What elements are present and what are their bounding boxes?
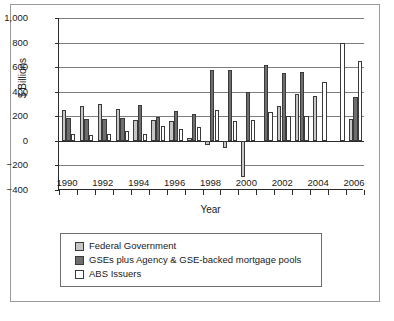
x-axis-tick (95, 190, 96, 195)
x-axis-tick (203, 190, 204, 195)
x-axis-tick-label: 1994 (119, 178, 159, 188)
legend-swatch-fed (75, 242, 84, 251)
y-axis-tick (55, 67, 59, 68)
x-axis-label: Year (58, 204, 363, 215)
bar (102, 119, 106, 141)
legend: Federal GovernmentGSEs plus Agency & GSE… (60, 233, 322, 287)
bar (143, 134, 147, 141)
bar (71, 134, 75, 141)
legend-item: ABS Issuers (61, 267, 321, 281)
bar (246, 92, 250, 141)
x-axis-tick (328, 190, 329, 195)
bar (340, 43, 344, 141)
bar (174, 111, 178, 140)
x-axis-tick (220, 190, 221, 195)
x-axis-tick (131, 190, 132, 195)
bar (264, 65, 268, 141)
bar (84, 119, 88, 141)
legend-label: Federal Government (89, 241, 176, 251)
x-axis-tick (185, 190, 186, 195)
bar (223, 141, 227, 148)
bar (156, 117, 160, 141)
gridline (59, 165, 364, 166)
bar (233, 121, 237, 141)
bar (192, 114, 196, 140)
x-axis-tick (310, 190, 311, 195)
bar (286, 116, 290, 141)
y-axis-tick-label: −400 (0, 185, 28, 195)
legend-swatch-gse (75, 256, 84, 265)
bar (304, 116, 308, 141)
bar (120, 118, 124, 141)
bar (353, 97, 357, 141)
y-axis-tick (55, 165, 59, 166)
zero-line (59, 141, 364, 142)
bar (300, 72, 304, 141)
x-axis-tick-label: 2000 (226, 178, 266, 188)
bar (89, 135, 93, 141)
x-axis-tick (238, 190, 239, 195)
x-axis-tick-label: 1996 (155, 178, 195, 188)
bar (210, 70, 214, 141)
y-axis-tick (55, 116, 59, 117)
bar (187, 138, 191, 141)
x-axis-tick (292, 190, 293, 195)
bar (197, 127, 201, 141)
bar (133, 120, 137, 141)
y-axis-tick (55, 141, 59, 142)
bar (349, 119, 353, 141)
x-axis-tick-label: 2002 (262, 178, 302, 188)
x-axis-tick-label: 1992 (83, 178, 123, 188)
bar (241, 141, 245, 177)
legend-label: ABS Issuers (89, 269, 141, 279)
y-axis-tick-label: 200 (0, 111, 28, 121)
figure: $ Billions Year Federal GovernmentGSEs p… (0, 0, 394, 321)
x-axis-tick (274, 190, 275, 195)
y-axis-tick (55, 43, 59, 44)
bar (107, 134, 111, 140)
bar (282, 73, 286, 141)
x-axis-tick (364, 190, 365, 195)
x-axis-tick-label: 2004 (298, 178, 338, 188)
x-axis-tick-label: 2006 (334, 178, 374, 188)
x-axis-tick-label: 1998 (191, 178, 231, 188)
y-axis-tick-label: 1,000 (0, 13, 28, 23)
x-axis-tick (346, 190, 347, 195)
bar (277, 106, 281, 140)
y-axis-tick-label: 0 (0, 136, 28, 146)
y-axis-tick-label: 800 (0, 38, 28, 48)
gridline (59, 18, 364, 19)
bar (98, 104, 102, 140)
bar (251, 120, 255, 141)
bar (161, 126, 165, 141)
y-axis-tick (55, 92, 59, 93)
bar (322, 82, 326, 141)
bar (66, 118, 70, 141)
y-axis-tick-label: −200 (0, 160, 28, 170)
bar (125, 131, 129, 141)
bar (169, 121, 173, 141)
bar (138, 105, 142, 141)
bar (313, 96, 317, 141)
x-axis-tick-label: 1990 (47, 178, 87, 188)
legend-item: Federal Government (61, 239, 321, 253)
bar (80, 106, 84, 141)
x-axis-tick (256, 190, 257, 195)
legend-item: GSEs plus Agency & GSE-backed mortgage p… (61, 253, 321, 267)
y-axis-tick-label: 400 (0, 87, 28, 97)
gridline (59, 67, 364, 68)
bar (116, 109, 120, 141)
bar (228, 70, 232, 141)
bar (151, 120, 155, 141)
y-axis-tick (55, 18, 59, 19)
x-axis-tick (59, 190, 60, 195)
x-axis-tick (113, 190, 114, 195)
bar (358, 61, 362, 141)
bar (268, 112, 272, 141)
legend-label: GSEs plus Agency & GSE-backed mortgage p… (89, 255, 301, 265)
x-axis-tick (149, 190, 150, 195)
y-axis-tick-label: 600 (0, 62, 28, 72)
x-axis-tick (77, 190, 78, 195)
x-axis-tick (167, 190, 168, 195)
plot-area (58, 18, 363, 190)
